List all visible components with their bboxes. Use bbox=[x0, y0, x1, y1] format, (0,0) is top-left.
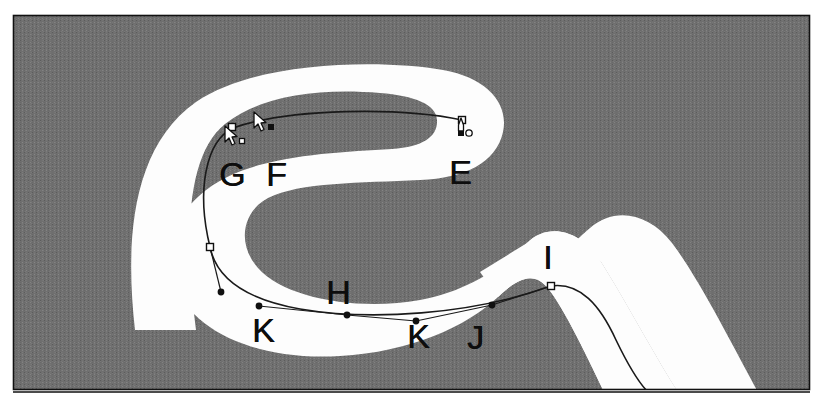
control-handle-icon[interactable] bbox=[218, 289, 225, 296]
control-handle-icon[interactable] bbox=[344, 312, 351, 319]
pen-cursor-badge-circle bbox=[466, 130, 472, 136]
control-handle-icon[interactable] bbox=[413, 318, 420, 325]
anchor-point-icon[interactable] bbox=[548, 283, 555, 290]
control-handle-icon[interactable] bbox=[256, 303, 263, 310]
pen-cursor-badge-hollow-square bbox=[240, 139, 245, 144]
illustration-canvas bbox=[0, 0, 827, 404]
anchor-point-icon[interactable] bbox=[207, 244, 214, 251]
figure-container: E F G H I J K K bbox=[0, 0, 827, 404]
control-handle-icon[interactable] bbox=[489, 302, 496, 309]
pen-cursor-badge-filled-square bbox=[268, 124, 274, 130]
